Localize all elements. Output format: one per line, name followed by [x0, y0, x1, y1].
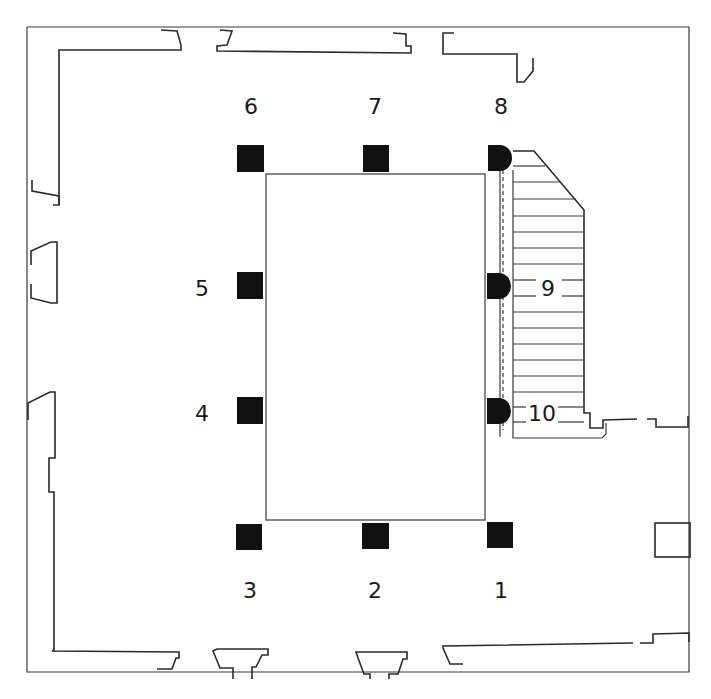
top-wall [32, 30, 533, 205]
column-7 [363, 145, 389, 172]
label-3: 3 [243, 578, 257, 603]
label-9: 9 [541, 276, 555, 301]
column-4 [237, 397, 263, 424]
left-wall-lower [28, 392, 179, 669]
floor-plan: 6 7 8 5 9 4 10 3 2 1 [0, 0, 711, 699]
column-1 [487, 522, 513, 548]
label-4: 4 [195, 401, 209, 426]
columns [236, 145, 513, 550]
column-2 [362, 523, 389, 549]
label-10: 10 [528, 401, 556, 426]
column-9 [487, 273, 511, 299]
label-2: 2 [368, 578, 382, 603]
column-3 [236, 524, 262, 550]
column-8 [488, 145, 512, 171]
column-5 [237, 272, 263, 299]
label-6: 6 [244, 94, 258, 119]
outer-boundary [27, 27, 689, 672]
label-5: 5 [195, 276, 209, 301]
label-8: 8 [494, 94, 508, 119]
central-court [266, 174, 485, 520]
label-1: 1 [494, 578, 508, 603]
column-6 [237, 145, 264, 172]
label-7: 7 [368, 94, 382, 119]
pier-right [655, 523, 690, 557]
left-wall-window [31, 242, 57, 303]
staircase [500, 151, 688, 438]
column-10 [487, 398, 511, 424]
